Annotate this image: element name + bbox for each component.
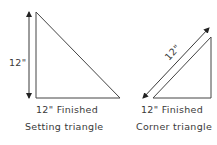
corner-triangle-finished-label: 12" Finished [141, 104, 203, 115]
corner-triangle-group: 12" 12" Finished Corner triangle [136, 28, 212, 132]
setting-triangle-group: 12" 12" Finished Setting triangle [9, 12, 120, 132]
corner-triangle-diagonal-arrow [176, 28, 209, 63]
setting-triangle-dimension-label: 12" [9, 57, 26, 68]
corner-triangle-shape [153, 37, 211, 98]
diagram-canvas: 12" 12" Finished Setting triangle 12" 12… [0, 0, 217, 145]
triangle-diagram: 12" 12" Finished Setting triangle 12" 12… [0, 0, 217, 145]
corner-triangle-caption: Corner triangle [136, 121, 212, 132]
corner-triangle-diagonal-arrow [143, 63, 176, 98]
setting-triangle-shape [36, 12, 120, 98]
setting-triangle-caption: Setting triangle [25, 121, 103, 132]
setting-triangle-finished-label: 12" Finished [36, 104, 98, 115]
